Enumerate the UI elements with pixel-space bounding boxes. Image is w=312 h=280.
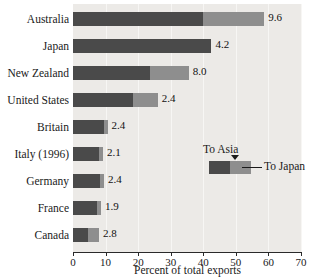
bar-segment-to-asia[interactable] — [73, 39, 211, 53]
category-label: France — [0, 201, 69, 215]
bar-value-label: 1.9 — [105, 199, 119, 213]
category-label: Canada — [0, 228, 69, 242]
bar-segment-to-asia[interactable] — [73, 66, 150, 80]
bar-segment-to-asia[interactable] — [73, 93, 133, 107]
chart-legend: To Asia To Japan — [198, 143, 308, 181]
chart-container: AustraliaJapanNew ZealandUnited StatesBr… — [0, 0, 312, 280]
bar-row[interactable]: 9.6 — [73, 12, 301, 26]
legend-pointer-triangle-icon — [231, 155, 239, 160]
legend-leader-line — [242, 167, 262, 168]
bar-value-label: 2.1 — [107, 145, 121, 159]
bar-row[interactable]: 2.4 — [73, 120, 301, 134]
bar-row[interactable]: 2.4 — [73, 93, 301, 107]
bar-segment-to-japan[interactable] — [88, 228, 99, 242]
bar-segment-to-japan[interactable] — [100, 174, 104, 188]
category-label: Italy (1996) — [0, 147, 69, 161]
bar-segment-to-japan[interactable] — [133, 93, 158, 107]
category-label: Japan — [0, 39, 69, 53]
legend-label-to-japan: To Japan — [264, 160, 305, 173]
bar-segment-to-asia[interactable] — [73, 228, 88, 242]
bar-segment-to-asia[interactable] — [73, 120, 104, 134]
category-label: Germany — [0, 174, 69, 188]
bar-value-label: 2.4 — [108, 172, 122, 186]
bar-value-label: 2.4 — [112, 118, 126, 132]
gridline — [301, 4, 302, 252]
bar-value-label: 2.4 — [162, 91, 176, 105]
category-label: Britain — [0, 120, 69, 134]
plot-area: 9.64.28.02.42.42.12.41.92.8 — [73, 4, 301, 252]
bar-row[interactable]: 4.2 — [73, 39, 301, 53]
bar-value-label: 2.8 — [103, 226, 117, 240]
bar-row[interactable]: 2.8 — [73, 228, 301, 242]
bar-segment-to-asia[interactable] — [73, 174, 100, 188]
bar-segment-to-japan[interactable] — [99, 147, 103, 161]
x-axis-title: Percent of total exports — [73, 264, 302, 276]
bar-segment-to-asia[interactable] — [73, 12, 203, 26]
category-axis-labels: AustraliaJapanNew ZealandUnited StatesBr… — [0, 4, 69, 252]
category-label: United States — [0, 93, 69, 107]
bar-segment-to-japan[interactable] — [203, 12, 264, 26]
bar-segment-to-asia[interactable] — [73, 147, 99, 161]
bar-row[interactable]: 8.0 — [73, 66, 301, 80]
bar-segment-to-japan[interactable] — [97, 201, 101, 215]
bar-segment-to-japan[interactable] — [150, 66, 189, 80]
legend-swatch-to-asia — [209, 161, 230, 174]
bar-value-label: 8.0 — [193, 64, 207, 78]
category-label: Australia — [0, 12, 69, 26]
bar-row[interactable]: 1.9 — [73, 201, 301, 215]
bar-value-label: 9.6 — [268, 10, 282, 24]
category-label: New Zealand — [0, 66, 69, 80]
bar-segment-to-asia[interactable] — [73, 201, 97, 215]
bar-segment-to-japan[interactable] — [104, 120, 108, 134]
bar-value-label: 4.2 — [215, 37, 229, 51]
